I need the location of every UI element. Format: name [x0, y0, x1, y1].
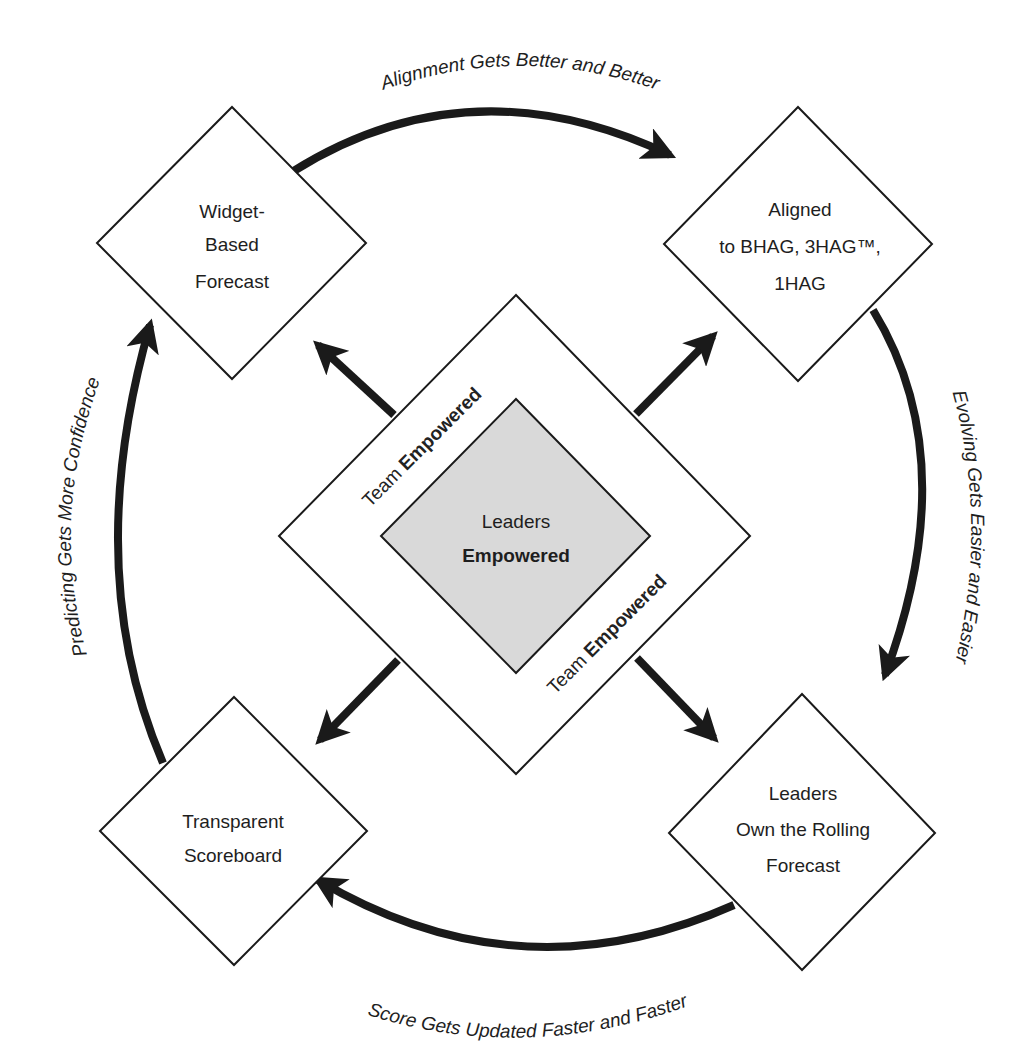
node-label-line1: Transparent [182, 811, 284, 832]
node-label-line3: Forecast [766, 855, 841, 876]
node-label-line1: Aligned [768, 199, 831, 220]
node-label-line3: Forecast [195, 271, 270, 292]
node-top-left: Widget- Based Forecast [97, 107, 366, 379]
node-label-line2: Scoreboard [184, 845, 282, 866]
node-label-line2: to BHAG, 3HAG™, [719, 236, 881, 257]
core-label-line2: Empowered [462, 545, 570, 566]
cycle-diagram: Widget- Based Forecast Aligned to BHAG, … [0, 0, 1028, 1051]
arrow-to-top-left [318, 345, 394, 415]
arrow-to-bottom-right [637, 658, 714, 738]
node-label-line2: Own the Rolling [736, 819, 870, 840]
cycle-label-bottom: Score Gets Updated Faster and Faster [366, 990, 691, 1042]
arrow-to-top-right [636, 336, 713, 414]
arrow-to-bottom-left [320, 660, 398, 740]
arrow-right-cycle [873, 310, 922, 675]
node-label-line1: Widget- [199, 201, 264, 222]
node-label-line1: Leaders [769, 783, 838, 804]
arrow-left-cycle [118, 325, 163, 763]
arrow-top-cycle [292, 111, 670, 172]
node-label-line3: 1HAG [774, 273, 826, 294]
node-label-line2: Based [205, 234, 259, 255]
core-label-line1: Leaders [482, 511, 551, 532]
cycle-label-left: Predicting Gets More Confidence [54, 374, 104, 659]
cycle-label-right: Evolving Gets Easier and Easier [949, 388, 989, 667]
cycle-label-top: Alignment Gets Better and Better [377, 49, 663, 94]
arrow-bottom-cycle [318, 880, 734, 947]
